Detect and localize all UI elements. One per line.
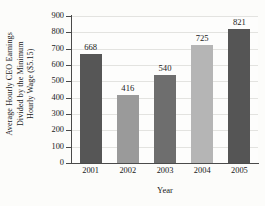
bar-chart: Average Hourly CEO Earnings Divided by t… (0, 0, 265, 206)
bar (117, 95, 139, 163)
y-axis-tick (66, 32, 71, 33)
bar-value-label: 821 (219, 18, 259, 27)
y-axis-tick (66, 65, 71, 66)
y-axis-tick-label: 500 (25, 77, 64, 85)
bar (228, 29, 250, 163)
y-axis-line (71, 15, 72, 164)
y-axis-tick-label: 300 (25, 110, 64, 118)
y-axis-tick-label: 900 (25, 12, 64, 20)
bar (80, 54, 102, 163)
bar (154, 75, 176, 163)
x-axis-tick-label: 2005 (217, 167, 261, 175)
bar-value-label: 668 (71, 43, 111, 52)
y-axis-tick-label: 0 (25, 159, 64, 167)
y-axis-tick-label: 100 (25, 143, 64, 151)
y-axis-title-line-1: Average Hourly CEO Earnings (5, 9, 16, 159)
bar-value-label: 725 (182, 34, 222, 43)
y-axis-tick (66, 114, 71, 115)
y-axis-tick-label: 400 (25, 94, 64, 102)
y-axis-tick (66, 147, 71, 148)
y-axis-tick (66, 98, 71, 99)
bar (191, 45, 213, 163)
y-axis-tick (66, 163, 71, 164)
y-axis-tick (66, 81, 71, 82)
bar-value-label: 416 (108, 84, 148, 93)
y-axis-tick-label: 800 (25, 28, 64, 36)
x-axis-line (71, 163, 259, 164)
y-axis-tick (66, 16, 71, 17)
x-axis-title: Year (72, 186, 258, 195)
gridline (72, 16, 258, 17)
y-axis-tick (66, 130, 71, 131)
y-axis-tick-label: 700 (25, 45, 64, 53)
y-axis-tick-label: 600 (25, 61, 64, 69)
y-axis-tick-label: 200 (25, 126, 64, 134)
bar-value-label: 540 (145, 64, 185, 73)
